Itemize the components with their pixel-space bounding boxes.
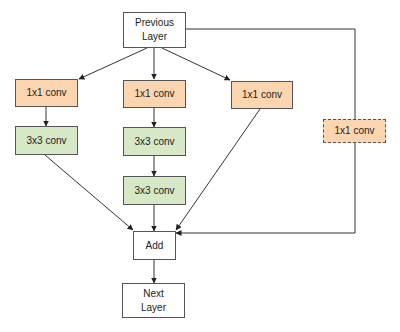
next-layer-node: Next Layer	[122, 283, 185, 318]
edges	[0, 0, 400, 332]
shortcut-conv1x1-node: 1x1 conv	[323, 119, 386, 143]
previous-layer-line2: Layer	[142, 30, 167, 44]
branch2-conv1x1-node: 1x1 conv	[123, 80, 186, 108]
branch3-conv1x1-node: 1x1 conv	[231, 81, 293, 109]
shortcut-conv1x1-label: 1x1 conv	[334, 124, 374, 138]
branch2-conv3x3-a-node: 3x3 conv	[123, 127, 186, 156]
previous-layer-line1: Previous	[135, 16, 174, 30]
edge-b1-3x3-add	[45, 155, 133, 230]
branch3-conv1x1-label: 1x1 conv	[242, 88, 282, 102]
next-layer-line1: Next	[143, 287, 164, 301]
branch2-conv3x3-b-label: 3x3 conv	[134, 184, 174, 198]
branch1-conv3x3-node: 3x3 conv	[15, 126, 78, 155]
edge-shortcut-add	[176, 143, 355, 233]
branch1-conv1x1-label: 1x1 conv	[26, 86, 66, 100]
next-layer-line2: Layer	[141, 301, 166, 315]
edge-prev-b3	[162, 48, 230, 80]
branch2-conv1x1-label: 1x1 conv	[134, 87, 174, 101]
add-label: Add	[146, 239, 164, 253]
edge-b3-1x1-add	[176, 109, 260, 230]
branch2-conv3x3-b-node: 3x3 conv	[123, 176, 186, 205]
previous-layer-node: Previous Layer	[123, 12, 186, 48]
edge-prev-b1	[79, 48, 147, 79]
add-node: Add	[133, 231, 176, 260]
branch1-conv3x3-label: 3x3 conv	[26, 134, 66, 148]
branch2-conv3x3-a-label: 3x3 conv	[134, 135, 174, 149]
branch1-conv1x1-node: 1x1 conv	[15, 79, 78, 107]
